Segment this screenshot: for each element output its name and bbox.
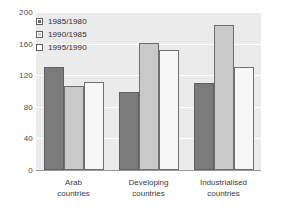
x-axis-tick-label: Arabcountries [30,177,117,199]
bar[interactable] [159,50,179,170]
legend-item[interactable]: 1985/1980 [36,16,87,27]
bar[interactable] [194,83,214,170]
bar[interactable] [139,43,159,170]
y-axis-tick-label: 200 [3,8,33,17]
legend-item-label: 1990/1985 [48,30,87,39]
y-axis: 04080120160200 [0,0,33,210]
bar-group [194,12,254,170]
bar[interactable] [84,82,104,170]
legend-item-label: 1995/1990 [48,43,87,52]
chart-legend: 1985/19801990/19851995/1990 [33,14,90,57]
legend-item-label: 1985/1980 [48,17,87,26]
bar-group [119,12,179,170]
legend-swatch-icon [36,18,43,25]
x-axis-tick-label: Developingcountries [105,177,192,199]
bar[interactable] [214,25,234,170]
x-axis-tick-label: Industrialisedcountries [180,177,267,199]
bar[interactable] [44,67,64,170]
legend-swatch-icon [36,31,43,38]
y-axis-tick-label: 0 [3,166,33,175]
legend-item[interactable]: 1990/1985 [36,29,87,40]
legend-item[interactable]: 1995/1990 [36,42,87,53]
legend-swatch-icon [36,44,43,51]
y-axis-tick-label: 160 [3,39,33,48]
y-axis-tick-label: 120 [3,71,33,80]
bar-chart: 04080120160200 ArabcountriesDevelopingco… [0,0,283,210]
y-axis-tick-label: 40 [3,134,33,143]
bar[interactable] [234,67,254,170]
bar[interactable] [64,86,84,170]
x-axis-baseline [36,170,261,171]
bar[interactable] [119,92,139,170]
y-axis-tick-label: 80 [3,102,33,111]
